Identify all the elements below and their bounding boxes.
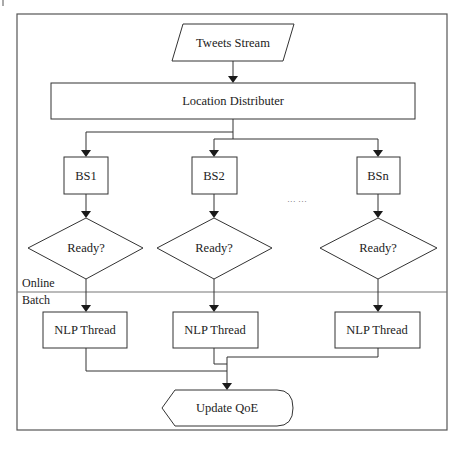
node-bs2: BS2 <box>192 157 237 194</box>
edge-tweets-to-distributer <box>228 61 238 83</box>
node-label: Location Distributer <box>182 94 285 108</box>
node-ready-1: Ready? <box>28 218 143 279</box>
node-label: BS1 <box>75 169 97 183</box>
edge-line-to-bs1 <box>86 132 233 150</box>
arrowhead <box>81 211 91 218</box>
edge-bsn-to-ready <box>373 194 383 218</box>
node-label: NLP Thread <box>184 323 246 337</box>
node-label: Update QoE <box>196 401 258 415</box>
edge-line-nlp2 <box>214 348 227 364</box>
node-bsn: BSn <box>357 157 400 194</box>
arrowhead <box>228 76 238 83</box>
arrowhead <box>81 150 91 157</box>
zone-label-online: Online <box>22 276 55 290</box>
node-label: NLP Thread <box>54 323 116 337</box>
node-tweets-stream: Tweets Stream <box>172 24 294 61</box>
node-location-distributer: Location Distributer <box>51 83 415 119</box>
edge-line-to-bs2-bsn <box>214 139 378 150</box>
arrowhead <box>373 150 383 157</box>
zone-label-batch: Batch <box>22 293 50 307</box>
node-label: Ready? <box>67 241 105 255</box>
edge-ready2-to-nlp <box>209 279 219 312</box>
edge-ready1-to-nlp <box>81 279 91 312</box>
node-label: Tweets Stream <box>196 36 270 50</box>
arrowhead <box>209 150 219 157</box>
node-ready-n: Ready? <box>320 218 437 279</box>
ellipsis-more-stations: ··· ··· <box>287 196 307 206</box>
node-label: Ready? <box>359 241 397 255</box>
arrowhead <box>81 305 91 312</box>
arrowhead <box>222 383 232 390</box>
node-label: Ready? <box>195 241 233 255</box>
node-label: NLP Thread <box>346 323 408 337</box>
edge-readyn-to-nlp <box>373 279 383 312</box>
edge-bs2-to-ready <box>209 194 219 218</box>
arrowhead <box>373 305 383 312</box>
node-label: BS2 <box>203 169 225 183</box>
arrowhead <box>209 211 219 218</box>
node-bs1: BS1 <box>64 157 108 194</box>
arrowhead <box>373 211 383 218</box>
node-nlp-thread-n: NLP Thread <box>335 312 420 348</box>
arrowhead <box>209 305 219 312</box>
node-update-qoe: Update QoE <box>162 390 293 426</box>
edge-line-nlp1 <box>86 348 227 371</box>
edge-nlp-merge <box>86 348 378 390</box>
node-ready-2: Ready? <box>157 218 272 279</box>
edge-distributer-branches <box>81 119 383 157</box>
edge-bs1-to-ready <box>81 194 91 218</box>
edge-line-nlpn <box>227 348 378 383</box>
node-nlp-thread-1: NLP Thread <box>43 312 127 348</box>
flowchart-diagram: Online Batch Tweets Stream Location Dist… <box>0 0 464 450</box>
node-label: BSn <box>367 169 389 183</box>
node-nlp-thread-2: NLP Thread <box>173 312 258 348</box>
